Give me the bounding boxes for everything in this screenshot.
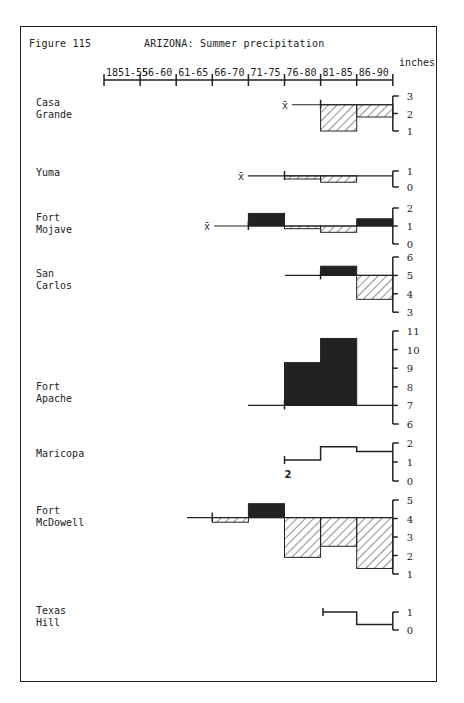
y-tick-label: 1 [407,221,413,232]
x-axis: 1851-5556-6061-6566-7071-7576-8081-8586-… [104,67,393,86]
step-line [323,612,393,625]
y-tick-label: 1 [407,569,413,580]
y-tick-label: 6 [407,419,413,430]
y-tick-label: 8 [407,382,413,393]
bar-above-mean [285,363,321,406]
y-tick-label: 3 [407,91,413,102]
y-tick-label: 4 [407,289,413,300]
y-tick-label: 5 [407,270,413,281]
station-row: 10 [323,607,413,636]
bar-above-mean [248,504,284,518]
bar-above-mean [321,266,357,275]
x-tick-label: 81-85 [323,67,353,78]
mean-marker: x̄ [238,171,244,182]
y-tick-label: 5 [407,495,413,506]
station-row: 54321 [187,495,413,580]
bar-above-mean [248,213,284,226]
x-tick-label: 86-90 [359,67,389,78]
y-tick-label: 2 [407,203,413,214]
station-row: 210x̄ [204,203,413,250]
bar-below-mean [357,518,393,569]
y-tick-label: 0 [407,182,413,193]
step-line [285,447,393,460]
station-row: 321x̄ [282,91,413,137]
footnote-marker: 2 [285,469,292,480]
y-tick-label: 2 [407,438,413,449]
station-row: 11109876 [248,326,420,430]
y-tick-label: 1 [407,126,413,137]
station-row: 10x̄ [238,166,413,193]
y-tick-label: 10 [407,345,420,356]
y-tick-label: 0 [407,239,413,250]
y-tick-label: 0 [407,476,413,487]
y-tick-label: 1 [407,166,413,177]
mean-marker: x̄ [204,221,210,232]
bar-below-mean [285,518,321,558]
y-tick-label: 6 [407,252,413,263]
bar-below-mean [321,105,357,131]
x-tick-label: 71-75 [250,67,280,78]
bar-below-mean [212,518,248,523]
bar-below-mean [321,226,357,232]
station-rows: 321x̄10x̄210x̄65431110987621025432110 [187,91,420,636]
y-tick-label: 2 [407,109,413,120]
x-tick-label: 56-60 [142,67,172,78]
bar-below-mean [321,176,357,182]
y-tick-label: 9 [407,363,413,374]
x-tick-label: 76-80 [287,67,317,78]
x-tick-label: 61-65 [178,67,208,78]
mean-marker: x̄ [282,100,288,111]
y-tick-label: 1 [407,607,413,618]
precipitation-chart: 1851-5556-6061-6566-7071-7576-8081-8586-… [0,0,464,703]
bar-above-mean [357,219,393,226]
y-tick-label: 3 [407,307,413,318]
station-row: 2102 [285,438,414,487]
x-tick-label: 66-70 [214,67,244,78]
bar-below-mean [357,105,393,117]
y-tick-label: 0 [407,625,413,636]
bar-below-mean [321,518,357,547]
y-tick-label: 11 [407,326,420,337]
y-tick-label: 3 [407,532,413,543]
station-row: 6543 [285,252,413,318]
bar-below-mean [357,275,393,299]
y-tick-label: 7 [407,400,413,411]
y-tick-label: 2 [407,551,413,562]
bar-above-mean [321,338,357,405]
y-tick-label: 4 [407,514,413,525]
y-tick-label: 1 [407,457,413,468]
